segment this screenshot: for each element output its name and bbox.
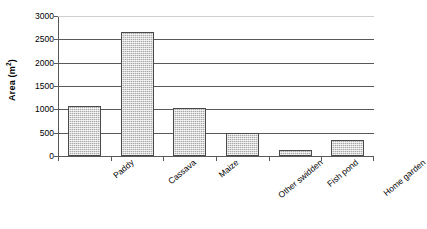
bar[interactable]	[68, 106, 101, 156]
bar[interactable]	[173, 108, 206, 156]
bars	[58, 16, 374, 156]
y-axis-title-superscript: 2	[5, 62, 12, 66]
x-axis-category-label: Other swidden	[277, 158, 324, 200]
y-axis-tick-label: 1000	[35, 105, 54, 114]
y-axis-tick-mark	[54, 133, 58, 134]
y-axis-tick-labels: 050010001500200025003000	[18, 16, 54, 156]
y-axis-tick-label: 1500	[35, 82, 54, 91]
plot-area	[58, 16, 374, 156]
y-axis-tick-label: 3000	[35, 12, 54, 21]
x-axis-category-label: Cassava	[167, 158, 198, 186]
y-axis-tick-mark	[54, 109, 58, 110]
x-axis-category-label: Paddy	[112, 158, 136, 180]
bar[interactable]	[331, 140, 364, 156]
x-axis-category-labels: PaddyCassavaMaizeOther swiddenFish pondH…	[58, 158, 391, 229]
bar[interactable]	[226, 133, 259, 156]
y-axis-tick-mark	[54, 86, 58, 87]
bar[interactable]	[279, 150, 312, 156]
y-axis-tick-label: 2500	[35, 35, 54, 44]
y-axis-title-close: )	[7, 59, 17, 62]
x-axis-category-label: Home garden	[382, 158, 427, 198]
y-axis-tick-mark	[54, 156, 58, 157]
x-axis-category-label: Fish pond	[326, 158, 360, 189]
y-axis-tick-label: 2000	[35, 58, 54, 67]
bar[interactable]	[121, 32, 154, 156]
y-axis-tick-mark	[54, 39, 58, 40]
y-axis-title-base: Area (m	[7, 66, 17, 101]
y-axis-title-text: Area (m2)	[7, 59, 17, 101]
x-axis-category-label: Maize	[217, 158, 240, 179]
y-axis-tick-label: 500	[40, 128, 54, 137]
y-axis-tick-mark	[54, 16, 58, 17]
y-axis-tick-mark	[54, 63, 58, 64]
